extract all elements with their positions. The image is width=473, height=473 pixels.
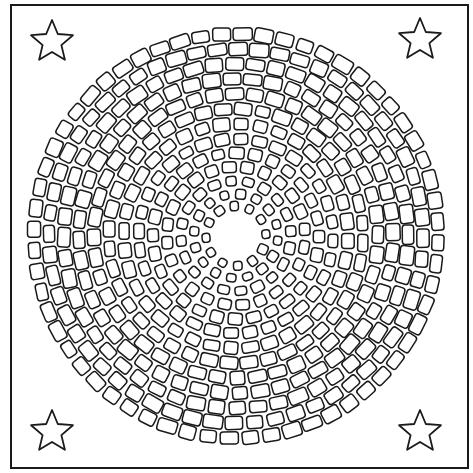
mosaic-tile xyxy=(424,275,440,294)
mosaic-tile xyxy=(42,246,58,263)
mosaic-tile xyxy=(326,174,346,195)
mosaic-tile xyxy=(312,178,327,194)
mosaic-tile xyxy=(104,241,116,257)
mosaic-tile xyxy=(203,323,221,337)
mosaic-tile xyxy=(29,199,44,218)
mosaic-tile xyxy=(349,66,370,87)
mosaic-tile xyxy=(320,404,343,425)
mosaic-tile xyxy=(244,204,255,215)
mosaic-tile xyxy=(174,111,195,128)
mosaic-tile xyxy=(217,284,230,295)
mosaic-tile xyxy=(229,401,246,415)
mosaic-tile xyxy=(165,199,181,216)
mosaic-tile xyxy=(190,242,202,253)
mosaic-tile xyxy=(402,225,414,245)
mosaic-tile xyxy=(299,223,310,236)
mosaic-tile xyxy=(35,283,49,302)
mosaic-tile xyxy=(293,203,309,220)
mosaic-tile xyxy=(243,73,263,86)
mosaic-tile xyxy=(162,236,173,249)
mosaic-tile xyxy=(386,223,401,240)
mosaic-tile xyxy=(354,110,374,131)
mosaic-tile xyxy=(406,167,421,186)
mosaic-tile xyxy=(366,80,387,101)
mosaic-tile xyxy=(301,89,322,108)
mosaic-tile xyxy=(200,429,217,443)
mosaic-tile xyxy=(270,125,288,140)
mosaic-tile xyxy=(158,138,177,156)
mosaic-tile xyxy=(410,271,426,289)
mosaic-tile xyxy=(357,215,368,231)
mosaic-tile xyxy=(313,231,324,243)
mosaic-tile xyxy=(112,58,134,79)
mosaic-tile xyxy=(207,179,222,192)
mosaic-tile xyxy=(234,118,248,130)
mosaic-tile xyxy=(145,75,164,93)
mosaic-tile xyxy=(217,257,228,268)
mosaic-tile xyxy=(28,242,41,259)
mosaic-tile xyxy=(109,180,126,199)
mosaic-tile xyxy=(344,81,364,101)
mosaic-tile xyxy=(399,204,415,224)
mosaic-tile xyxy=(175,128,194,146)
mosaic-tile xyxy=(247,369,268,384)
mosaic-tile xyxy=(145,277,161,294)
mosaic-tile xyxy=(144,151,163,170)
mosaic-tile xyxy=(285,66,307,84)
mosaic-tile xyxy=(33,178,48,197)
mosaic-tile xyxy=(251,135,268,148)
mosaic-tile xyxy=(202,414,223,430)
mosaic-tile xyxy=(220,356,239,370)
mosaic-tile xyxy=(324,252,337,267)
star-icon xyxy=(31,20,73,60)
mosaic-tile xyxy=(118,242,132,258)
mosaic-tile xyxy=(130,47,152,68)
mosaic-circle xyxy=(27,27,444,445)
mosaic-tile xyxy=(121,260,137,279)
mosaic-tile xyxy=(226,273,236,282)
mosaic-tile xyxy=(111,79,131,98)
mosaic-tile xyxy=(185,316,203,331)
mosaic-tile xyxy=(233,261,242,270)
mosaic-tile xyxy=(235,189,246,200)
mosaic-tile xyxy=(235,286,248,296)
mosaic-tile xyxy=(204,197,217,210)
mosaic-tile xyxy=(202,233,211,243)
mosaic-tile xyxy=(210,384,229,400)
mosaic-tile xyxy=(369,205,385,224)
mosaic-tile xyxy=(43,225,55,242)
mosaic-tile xyxy=(143,92,164,112)
mosaic-tile xyxy=(132,119,152,139)
mosaic-tile xyxy=(154,264,168,280)
mosaic-tile xyxy=(292,257,306,272)
mosaic-tile xyxy=(383,202,400,221)
mosaic-tile xyxy=(285,225,296,236)
mosaic-tile xyxy=(269,47,290,62)
mosaic-tile xyxy=(263,304,279,319)
mosaic-tile xyxy=(134,223,145,238)
mosaic-tile xyxy=(192,187,208,203)
mosaic-tile xyxy=(167,322,184,338)
mosaic-tile xyxy=(45,265,61,287)
mosaic-tile xyxy=(263,75,283,91)
mosaic-tile xyxy=(219,190,229,200)
mosaic-tile xyxy=(236,299,250,310)
mosaic-tile xyxy=(260,335,279,352)
mosaic-tile xyxy=(210,267,222,279)
mosaic-tile xyxy=(281,421,303,440)
mosaic-tile xyxy=(359,94,381,116)
mosaic-tile xyxy=(175,162,194,180)
mosaic-tile xyxy=(133,334,155,355)
mosaic-tile xyxy=(282,272,297,287)
mosaic-tile xyxy=(73,231,85,249)
mosaic-tile xyxy=(203,217,214,228)
mosaic-tile xyxy=(57,227,71,247)
mosaic-tile xyxy=(338,251,353,270)
mosaic-tile xyxy=(245,58,265,72)
mosaic-tile xyxy=(379,304,398,325)
mosaic-tile xyxy=(134,242,146,258)
mosaic-tile xyxy=(334,317,355,338)
mosaic-tile xyxy=(147,229,159,242)
mosaic-tile xyxy=(250,193,263,205)
mosaic-tile xyxy=(269,395,289,410)
